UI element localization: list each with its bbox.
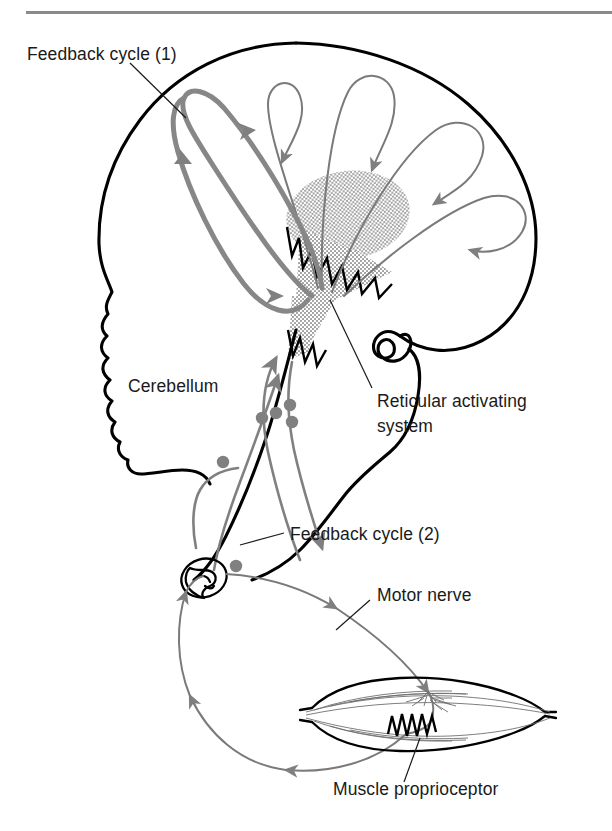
label-motor-nerve: Motor nerve: [377, 585, 471, 605]
synapse-node: [217, 456, 229, 468]
reticular-formation-stipple: [280, 163, 415, 360]
label-cerebellum: Cerebellum: [128, 376, 218, 396]
label-muscle-proprioceptor: Muscle proprioceptor: [333, 779, 498, 799]
leader-muscle-proprioceptor: [404, 738, 420, 782]
leader-reticular-activating-system: [330, 300, 372, 388]
top-rule: [26, 11, 612, 14]
brainstem-medial-wall: [194, 330, 296, 580]
label-feedback-cycle-1: Feedback cycle (1): [27, 44, 177, 64]
leader-feedback-cycle-1: [130, 63, 186, 118]
figure-container: Feedback cycle (1) Cerebellum Reticular …: [0, 0, 612, 831]
synapse-node: [284, 399, 296, 411]
label-reticular-activating-system-line1: Reticular activating: [377, 391, 527, 411]
leader-feedback-cycle-2: [240, 533, 284, 545]
synapse-node: [230, 560, 242, 572]
skeletal-muscle-belly: [300, 678, 556, 751]
anatomy-diagram: Feedback cycle (1) Cerebellum Reticular …: [0, 0, 612, 831]
synapse-node: [256, 412, 268, 424]
leader-motor-nerve: [336, 600, 370, 630]
brainstem-outline: [374, 332, 411, 362]
synapse-node: [286, 416, 298, 428]
motor-endplate-branching: [406, 692, 456, 712]
synapse-node: [270, 407, 282, 419]
label-feedback-cycle-2: Feedback cycle (2): [290, 524, 440, 544]
label-reticular-activating-system-line2: system: [377, 416, 433, 436]
brainstem-lateral-wall: [252, 349, 420, 580]
